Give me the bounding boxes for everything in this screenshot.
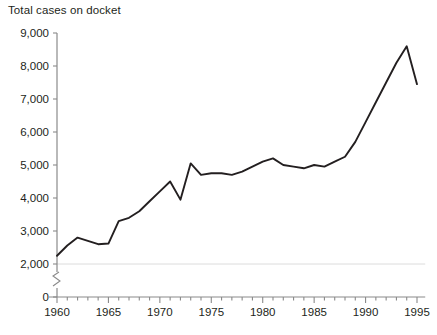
- axis-break-icon: [53, 272, 60, 286]
- x-tick-label: 1995: [404, 306, 430, 318]
- y-tick-label: 6,000: [20, 126, 49, 138]
- x-tick-label: 1980: [250, 306, 276, 318]
- x-tick-label: 1985: [301, 306, 327, 318]
- data-series-line: [57, 46, 417, 256]
- x-tick-label: 1975: [198, 306, 224, 318]
- y-tick-label: 3,000: [20, 225, 49, 237]
- x-tick-group: [57, 297, 417, 303]
- y-tick-label: 2,000: [20, 258, 49, 270]
- y-tick-label: 4,000: [20, 192, 49, 204]
- x-tick-label: 1970: [147, 306, 173, 318]
- line-chart-plot: 02,0003,0004,0005,0006,0007,0008,0009,00…: [0, 0, 437, 335]
- y-tick-label: 8,000: [20, 60, 49, 72]
- x-tick-label-group: 19601965197019751980198519901995: [44, 306, 430, 318]
- y-tick-label: 7,000: [20, 93, 49, 105]
- y-tick-label-group: 02,0003,0004,0005,0006,0007,0008,0009,00…: [20, 27, 49, 303]
- chart-container: Total cases on docket 02,0003,0004,0005,…: [0, 0, 437, 335]
- axis-group: [49, 33, 425, 297]
- x-tick-label: 1990: [353, 306, 379, 318]
- y-tick-label: 9,000: [20, 27, 49, 39]
- y-tick-label: 0: [43, 291, 49, 303]
- y-tick-label: 5,000: [20, 159, 49, 171]
- x-tick-label: 1960: [44, 306, 70, 318]
- x-tick-label: 1965: [96, 306, 122, 318]
